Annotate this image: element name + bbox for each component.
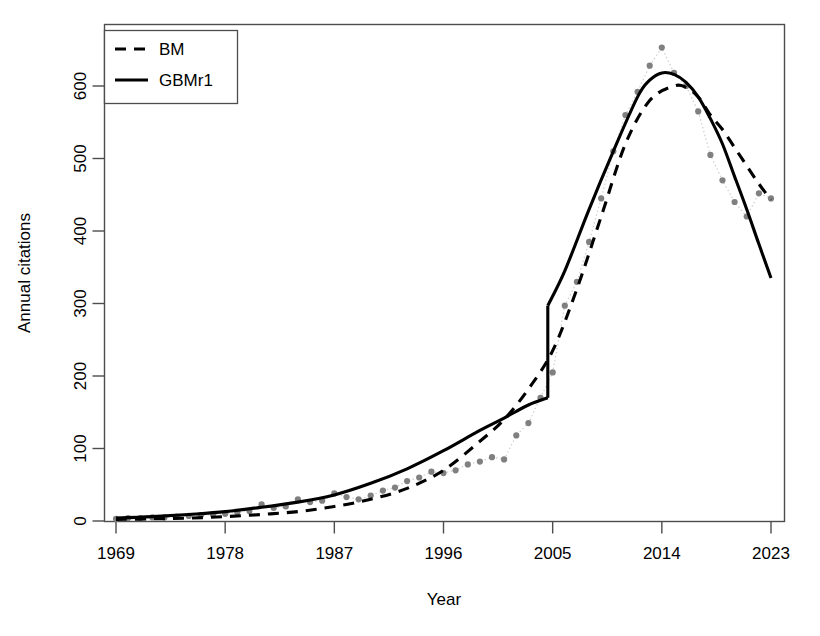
observed-point-1994 xyxy=(416,474,422,480)
x-tick-label-1978: 1978 xyxy=(206,544,244,563)
legend-label-gbmr1: GBMr1 xyxy=(159,71,213,90)
observed-point-2018 xyxy=(707,152,713,158)
observed-point-2023 xyxy=(768,195,774,201)
observed-point-1998 xyxy=(465,461,471,467)
annual-citations-line-chart: 1969197819871996200520142023 01002003004… xyxy=(0,0,820,636)
series-line-gbmr1-segment-2 xyxy=(548,73,771,306)
x-tick-label-2014: 2014 xyxy=(643,544,681,563)
y-tick-label-300: 300 xyxy=(71,289,90,317)
y-axis-tick-labels: 0100200300400500600 xyxy=(71,72,90,526)
series-line-bm xyxy=(116,85,771,520)
observed-point-2000 xyxy=(489,454,495,460)
chart-container: 1969197819871996200520142023 01002003004… xyxy=(0,0,820,636)
y-tick-label-600: 600 xyxy=(71,72,90,100)
observed-point-1999 xyxy=(477,459,483,465)
observed-point-2017 xyxy=(695,108,701,114)
observed-point-2001 xyxy=(501,456,507,462)
observed-point-2014 xyxy=(659,45,665,51)
y-axis-title: Annual citations xyxy=(15,213,34,333)
y-tick-label-400: 400 xyxy=(71,217,90,245)
observed-connector-line xyxy=(116,48,771,519)
observed-point-1995 xyxy=(428,469,434,475)
x-axis-title: Year xyxy=(427,590,462,609)
x-axis-ticks xyxy=(116,522,771,534)
observed-point-2019 xyxy=(719,177,725,183)
observed-point-2020 xyxy=(732,199,738,205)
y-tick-label-100: 100 xyxy=(71,434,90,462)
observed-point-2005 xyxy=(550,369,556,375)
y-axis-ticks xyxy=(93,86,105,521)
x-tick-label-1996: 1996 xyxy=(425,544,463,563)
series-line-gbmr1-segment-1 xyxy=(116,398,548,518)
observed-point-1993 xyxy=(404,478,410,484)
observed-point-2006 xyxy=(562,303,568,309)
observed-point-2009 xyxy=(598,195,604,201)
observed-point-1991 xyxy=(380,488,386,494)
observed-point-1992 xyxy=(392,485,398,491)
observed-point-2003 xyxy=(525,420,531,426)
x-tick-label-1969: 1969 xyxy=(97,544,135,563)
x-tick-label-1987: 1987 xyxy=(315,544,353,563)
observed-point-2022 xyxy=(756,190,762,196)
x-tick-label-2005: 2005 xyxy=(534,544,572,563)
y-tick-label-200: 200 xyxy=(71,362,90,390)
y-tick-label-0: 0 xyxy=(71,516,90,525)
observed-point-1988 xyxy=(343,494,349,500)
legend: BM GBMr1 xyxy=(105,31,238,104)
observed-point-1989 xyxy=(356,496,362,502)
observed-point-2002 xyxy=(513,432,519,438)
observed-point-1997 xyxy=(453,467,459,473)
x-tick-label-2023: 2023 xyxy=(752,544,790,563)
x-axis-tick-labels: 1969197819871996200520142023 xyxy=(97,544,790,563)
observed-point-2013 xyxy=(647,63,653,69)
legend-label-bm: BM xyxy=(159,40,185,59)
y-tick-label-500: 500 xyxy=(71,144,90,172)
